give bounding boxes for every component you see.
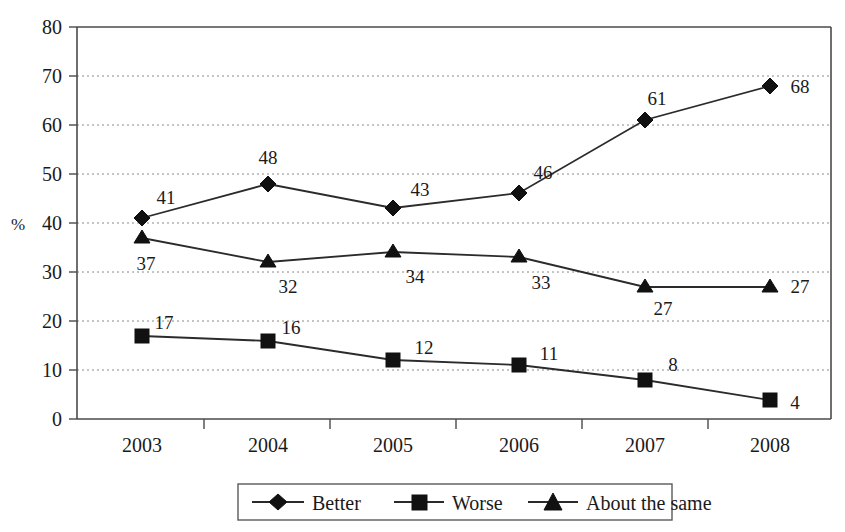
- y-tick-label-70: 70: [42, 65, 62, 87]
- data-point-better-2004[interactable]: [260, 176, 276, 192]
- data-label-worse-2003: 17: [155, 312, 174, 333]
- legend-label-worse: Worse: [452, 492, 503, 514]
- data-label-better-2005: 43: [411, 179, 430, 200]
- x-tick-label-2005: 2005: [373, 434, 413, 456]
- data-point-better-2005[interactable]: [385, 200, 401, 216]
- series-better: [134, 78, 778, 226]
- data-point-worse-2003[interactable]: [135, 329, 149, 343]
- gridlines: [77, 76, 831, 370]
- data-label-better-2003: 41: [157, 187, 176, 208]
- data-point-better-2007[interactable]: [637, 112, 653, 128]
- data-point-worse-2008[interactable]: [763, 393, 777, 407]
- x-tick-label-2008: 2008: [750, 434, 790, 456]
- data-label-worse-2007: 8: [668, 354, 678, 375]
- series-about-the-same: [134, 230, 778, 292]
- x-axis-tick-labels: 2003 2004 2005 2006 2007 2008: [122, 434, 790, 456]
- y-tick-label-80: 80: [42, 16, 62, 38]
- data-label-worse-2006: 11: [540, 343, 558, 364]
- y-axis-title: %: [11, 215, 25, 234]
- y-axis-tick-labels: 80 70 60 50 40 30 20 10 0: [42, 16, 62, 430]
- x-tick-label-2006: 2006: [499, 434, 539, 456]
- chart-legend: Better Worse About the same: [238, 484, 712, 520]
- data-label-better-2004: 48: [259, 147, 278, 168]
- data-point-same-2008[interactable]: [762, 279, 778, 292]
- data-point-better-2008[interactable]: [762, 78, 778, 94]
- y-tick-marks: [69, 27, 77, 419]
- legend-label-better: Better: [312, 492, 361, 514]
- y-tick-label-60: 60: [42, 114, 62, 136]
- data-point-same-2003[interactable]: [134, 230, 150, 243]
- data-point-better-2003[interactable]: [134, 210, 150, 226]
- y-tick-label-10: 10: [42, 359, 62, 381]
- data-point-worse-2004[interactable]: [261, 334, 275, 348]
- x-tick-label-2007: 2007: [625, 434, 665, 456]
- legend-label-about-the-same: About the same: [586, 492, 712, 514]
- y-tick-label-30: 30: [42, 261, 62, 283]
- data-point-worse-2006[interactable]: [512, 358, 526, 372]
- series-line-better: [142, 86, 770, 218]
- y-tick-label-40: 40: [42, 212, 62, 234]
- y-tick-label-50: 50: [42, 163, 62, 185]
- data-label-worse-2008: 4: [790, 392, 800, 413]
- y-tick-label-20: 20: [42, 310, 62, 332]
- x-tick-label-2003: 2003: [122, 434, 162, 456]
- data-point-worse-2005[interactable]: [386, 353, 400, 367]
- data-labels-about-the-same: 37 32 34 33 27 27: [137, 253, 810, 319]
- data-label-same-2007: 27: [654, 298, 673, 319]
- square-marker-icon: [412, 495, 427, 510]
- data-label-better-2008: 68: [791, 76, 810, 97]
- line-chart: 80 70 60 50 40 30 20 10 0 % 2003 2004 20…: [0, 0, 845, 532]
- data-label-same-2008: 27: [791, 276, 810, 297]
- x-tick-marks: [204, 419, 708, 429]
- data-point-same-2006[interactable]: [511, 249, 527, 262]
- data-label-better-2006: 46: [534, 162, 553, 183]
- data-point-better-2006[interactable]: [511, 185, 527, 201]
- data-label-same-2003: 37: [137, 253, 156, 274]
- data-label-better-2007: 61: [648, 88, 667, 109]
- data-label-same-2004: 32: [279, 276, 298, 297]
- y-tick-label-0: 0: [52, 408, 62, 430]
- data-point-worse-2007[interactable]: [638, 373, 652, 387]
- chart-container: 80 70 60 50 40 30 20 10 0 % 2003 2004 20…: [0, 0, 845, 532]
- series-line-about-the-same: [142, 238, 770, 287]
- data-label-worse-2005: 12: [415, 337, 434, 358]
- data-label-worse-2004: 16: [282, 317, 301, 338]
- data-point-same-2005[interactable]: [385, 244, 401, 257]
- series-worse: [135, 329, 777, 407]
- data-label-same-2005: 34: [406, 266, 426, 287]
- data-label-same-2006: 33: [532, 272, 551, 293]
- x-tick-label-2004: 2004: [248, 434, 288, 456]
